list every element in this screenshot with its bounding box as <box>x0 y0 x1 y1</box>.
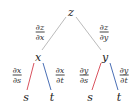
numerator: ∂z <box>100 23 108 32</box>
numerator: ∂y <box>120 66 129 75</box>
edge-z-x <box>42 17 66 50</box>
edge-x-s <box>27 63 34 90</box>
node-s-right: s <box>87 91 93 104</box>
numerator: ∂x <box>13 66 22 75</box>
label-dy-dt: ∂y∂t <box>120 66 129 85</box>
label-dz-dy: ∂z∂y <box>100 23 109 42</box>
edge-y-t <box>110 63 118 90</box>
node-y: y <box>102 51 108 64</box>
denominator: ∂x <box>36 33 45 42</box>
edge-x-t <box>43 63 51 90</box>
node-t-right: t <box>117 91 121 104</box>
numerator: ∂z <box>36 23 44 32</box>
node-x: x <box>35 51 41 64</box>
label-dx-ds: ∂x∂s <box>13 66 22 85</box>
label-dy-ds: ∂y∂s <box>80 66 89 85</box>
label-dz-dx: ∂z∂x <box>36 23 45 42</box>
node-t-left: t <box>50 91 54 104</box>
denominator: ∂y <box>100 33 109 42</box>
denominator: ∂t <box>56 76 63 85</box>
numerator: ∂y <box>80 66 89 75</box>
node-z: z <box>68 6 74 19</box>
edge-z-y <box>76 17 101 50</box>
denominator: ∂t <box>120 76 127 85</box>
edge-y-s <box>92 63 101 90</box>
denominator: ∂s <box>13 76 21 85</box>
denominator: ∂s <box>80 76 88 85</box>
numerator: ∂x <box>56 66 65 75</box>
node-s-left: s <box>23 91 29 104</box>
label-dx-dt: ∂x∂t <box>56 66 65 85</box>
